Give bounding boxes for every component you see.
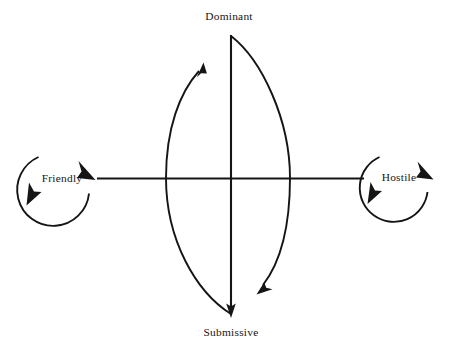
right-arc-downward [231, 36, 290, 285]
right-arc-arrowhead-down-icon [257, 282, 273, 294]
pole-label-dominant: Dominant [205, 10, 253, 22]
left-arc-upward [166, 71, 231, 314]
friendly-loop-arc [17, 157, 89, 226]
interpersonal-circumplex-diagram: Dominant Submissive Friendly Hostile [0, 0, 452, 356]
friendly-loop-arrowhead-left-icon [27, 183, 42, 206]
hostile-loop-arrowhead-right-icon [416, 162, 434, 180]
hostile-loop-arrowhead-left-icon [368, 182, 383, 204]
node-label-hostile: Hostile [382, 171, 417, 183]
node-label-friendly: Friendly [42, 172, 83, 184]
left-arc-arrowhead-up-icon [197, 63, 207, 78]
diagram-canvas: Dominant Submissive Friendly Hostile [0, 0, 452, 356]
pole-label-submissive: Submissive [203, 326, 258, 338]
